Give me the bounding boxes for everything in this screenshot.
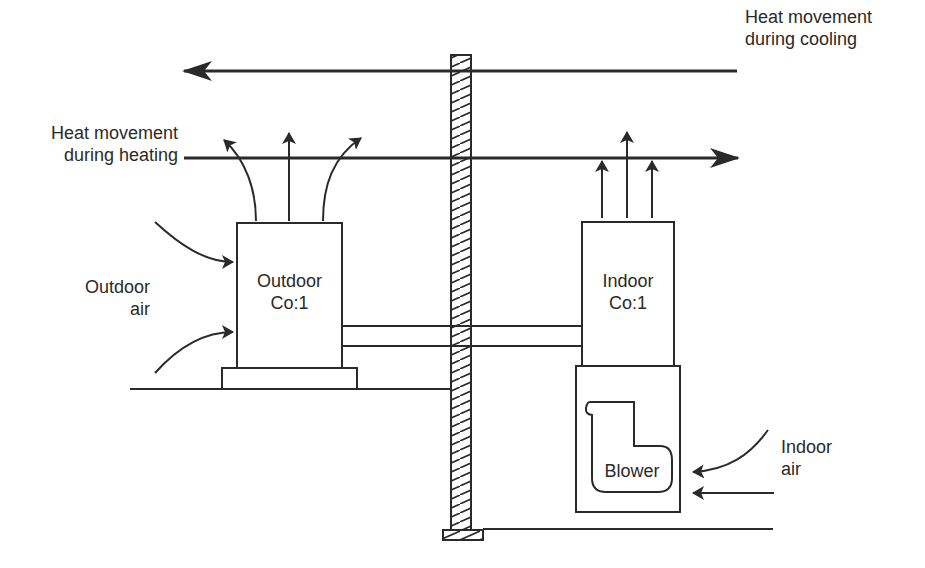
heating-label-line2: during heating: [20, 144, 178, 166]
indoor-coil-label-line2: Co:1: [582, 292, 674, 314]
indoor-air-label-line1: Indoor: [781, 436, 832, 458]
heating-label-line1: Heat movement: [20, 122, 178, 144]
cooling-label-line1: Heat movement: [745, 6, 872, 28]
blower-label: Blower: [592, 460, 672, 482]
cooling-label: Heat movement during cooling: [745, 6, 872, 50]
indoor-coil-label: Indoor Co:1: [582, 270, 674, 314]
indoor-coil-label-line1: Indoor: [582, 270, 674, 292]
indoor-supply-arrows: [602, 132, 652, 218]
outdoor-coil-label-line1: Outdoor: [237, 270, 342, 292]
indoor-air-label: Indoor air: [781, 436, 832, 480]
outdoor-air-label-line2: air: [60, 298, 150, 320]
outdoor-coil-label: Outdoor Co:1: [237, 270, 342, 314]
indoor-air-label-line2: air: [781, 458, 832, 480]
blower-cabinet: [576, 366, 680, 512]
heating-label: Heat movement during heating: [20, 122, 178, 166]
outdoor-air-label-line1: Outdoor: [60, 276, 150, 298]
outdoor-coil-label-line2: Co:1: [237, 292, 342, 314]
outdoor-air-intake-arrows: [155, 222, 233, 373]
outdoor-air-label: Outdoor air: [60, 276, 150, 320]
wall: [443, 55, 483, 540]
cooling-label-line2: during cooling: [745, 28, 872, 50]
indoor-air-intake-arrows: [693, 430, 774, 493]
outdoor-exhaust-arrows: [224, 133, 361, 221]
